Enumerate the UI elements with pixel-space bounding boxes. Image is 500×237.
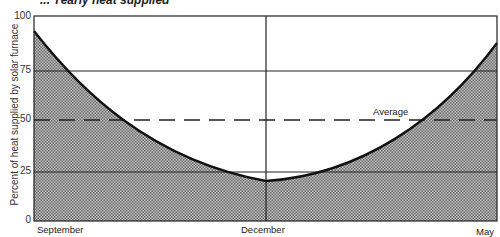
y-tick-25: 25	[7, 165, 31, 176]
chart-canvas	[0, 0, 500, 237]
x-tick-september: September	[37, 224, 83, 235]
y-tick-0: 0	[7, 214, 31, 225]
y-tick-50: 50	[7, 113, 31, 124]
y-tick-75: 75	[7, 64, 31, 75]
average-annotation: Average	[373, 106, 408, 117]
y-tick-100: 100	[7, 10, 31, 21]
chart-title: ... Yearly heat supplied	[40, 0, 169, 7]
x-tick-december: December	[241, 224, 285, 235]
x-tick-may: May	[476, 226, 494, 237]
